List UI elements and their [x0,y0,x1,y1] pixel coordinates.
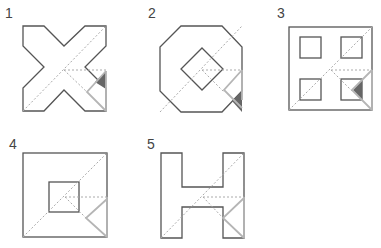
hole-top-left [300,37,321,58]
shape-4-square-center-hole: 4 [9,136,107,237]
hole-bottom-left [300,79,321,100]
figure-canvas: 1 2 3 4 [0,0,381,248]
shape-2-octagon: 2 [148,5,242,112]
label-1: 1 [5,5,13,21]
label-5: 5 [147,136,155,152]
label-2: 2 [148,5,156,21]
shape-1-x: 1 [5,5,106,111]
shape-5-h: 5 [147,136,244,238]
label-3: 3 [277,5,285,21]
shape-3-square-four-holes: 3 [277,5,372,110]
label-4: 4 [9,136,17,152]
